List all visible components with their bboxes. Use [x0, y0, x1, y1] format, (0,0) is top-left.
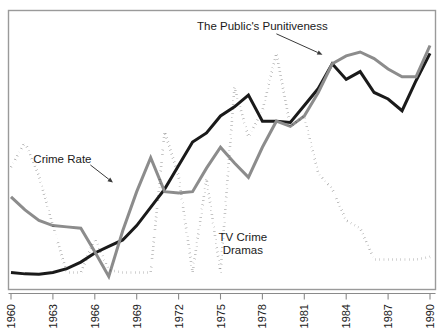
- line-chart: Crime RateThe Public's PunitivenessTV Cr…: [0, 0, 446, 334]
- x-tick-label-1963: 1963: [47, 304, 59, 328]
- x-tick-label-1975: 1975: [215, 304, 227, 328]
- x-tick-label-1972: 1972: [173, 304, 185, 328]
- chart-figure: Crime RateThe Public's PunitivenessTV Cr…: [0, 0, 446, 334]
- x-tick-label-1978: 1978: [256, 304, 268, 328]
- x-tick-label-1987: 1987: [382, 304, 394, 328]
- series-label-the-public-s-punitiveness: The Public's Punitiveness: [197, 20, 328, 32]
- x-tick-label-1990: 1990: [424, 304, 436, 328]
- series-label-tv-crime-dramas-line2: Dramas: [223, 244, 264, 256]
- series-label-tv-crime-dramas-line1: TV Crime: [219, 231, 268, 243]
- x-tick-label-1960: 1960: [5, 304, 17, 328]
- x-tick-label-1984: 1984: [340, 304, 352, 328]
- x-tick-label-1981: 1981: [298, 304, 310, 328]
- x-tick-label-1966: 1966: [89, 304, 101, 328]
- series-label-crime-rate: Crime Rate: [33, 153, 91, 165]
- x-tick-label-1969: 1969: [131, 304, 143, 328]
